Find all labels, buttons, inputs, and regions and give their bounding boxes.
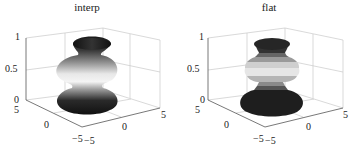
plot-title: interp <box>57 1 117 13</box>
y-tick: −5 <box>253 134 264 144</box>
z-tick: 0 <box>200 95 205 105</box>
x-tick: 0 <box>306 122 311 132</box>
x-tick: −5 <box>84 136 95 146</box>
plot-title: flat <box>239 1 299 13</box>
axes-3d-interp <box>0 0 176 152</box>
y-tick: 5 <box>195 105 200 115</box>
x-tick: 0 <box>122 122 127 132</box>
x-tick: 5 <box>161 110 166 120</box>
y-tick: 0 <box>224 120 229 130</box>
axes-3d-flat <box>175 0 351 152</box>
x-tick: −5 <box>265 136 276 146</box>
y-tick: 0 <box>44 120 49 130</box>
surface-flat <box>240 38 303 117</box>
z-tick: 0.5 <box>187 64 200 74</box>
plot-flat: flat 1 0.5 0 5 0 −5 −5 0 5 <box>175 0 351 152</box>
y-tick: −5 <box>72 134 83 144</box>
z-tick: 0.5 <box>5 64 18 74</box>
z-tick: 1 <box>15 32 20 42</box>
plot-interp: interp 1 0.5 0 5 0 −5 −5 0 5 <box>0 0 176 152</box>
x-tick: 5 <box>343 110 348 120</box>
y-tick: 5 <box>14 105 19 115</box>
surface-interp <box>56 37 117 115</box>
z-tick: 1 <box>199 32 204 42</box>
